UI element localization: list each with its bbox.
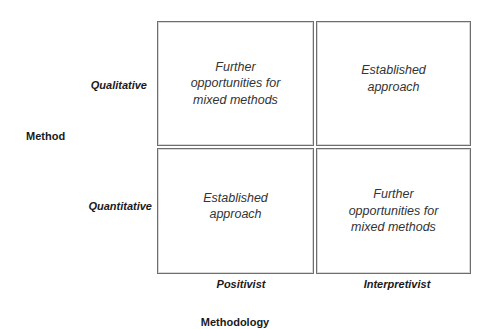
row-label-quantitative: Quantitative [60,200,152,212]
cell-quantitative-positivist: Established approach [157,148,314,274]
cell-quantitative-interpretivist: Further opportunities for mixed methods [316,148,471,274]
row-label-qualitative: Qualitative [60,79,147,91]
cell-text: Established approach [361,62,426,95]
cell-qualitative-positivist: Further opportunities for mixed methods [157,21,314,146]
cell-text: Further opportunities for mixed methods [349,186,439,236]
x-axis-title: Methodology [190,316,280,328]
y-axis-title: Method [26,130,65,142]
cell-qualitative-interpretivist: Established approach [316,21,471,146]
cell-text: Established approach [203,190,268,223]
column-label-positivist: Positivist [157,278,325,290]
column-label-interpretivist: Interpretivist [316,278,478,290]
cell-text: Further opportunities for mixed methods [191,59,281,109]
